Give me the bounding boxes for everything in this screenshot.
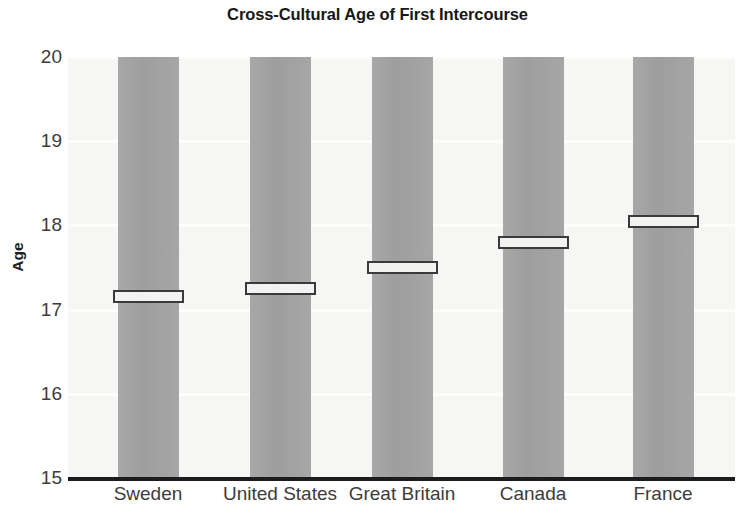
y-tick-label: 17 — [18, 300, 62, 319]
x-axis-tick-labels: SwedenUnited StatesGreat BritainCanadaFr… — [68, 484, 735, 518]
bar-united-states — [250, 57, 311, 478]
bar-france — [633, 57, 694, 478]
value-marker-united-states — [245, 282, 316, 295]
chart-title: Cross-Cultural Age of First Intercourse — [0, 5, 755, 24]
bar-sweden — [118, 57, 179, 478]
y-tick-label: 19 — [18, 131, 62, 150]
bar-canada — [503, 57, 564, 478]
value-marker-france — [628, 215, 699, 228]
bar-fill — [503, 57, 564, 478]
bar-fill — [250, 57, 311, 478]
bar-fill — [118, 57, 179, 478]
value-marker-great-britain — [367, 261, 438, 274]
y-tick-label: 15 — [18, 468, 62, 487]
value-marker-sweden — [113, 290, 184, 303]
y-tick-label: 16 — [18, 384, 62, 403]
y-tick-label: 20 — [18, 47, 62, 66]
bar-fill — [633, 57, 694, 478]
x-axis-line — [68, 477, 735, 481]
y-tick-label: 18 — [18, 215, 62, 234]
value-marker-canada — [498, 236, 569, 249]
x-tick-label: France — [573, 484, 753, 505]
plot-area — [68, 57, 735, 478]
y-axis-tick-labels: 201918171615 — [6, 0, 62, 523]
chart-container: Cross-Cultural Age of First Intercourse … — [0, 0, 755, 523]
